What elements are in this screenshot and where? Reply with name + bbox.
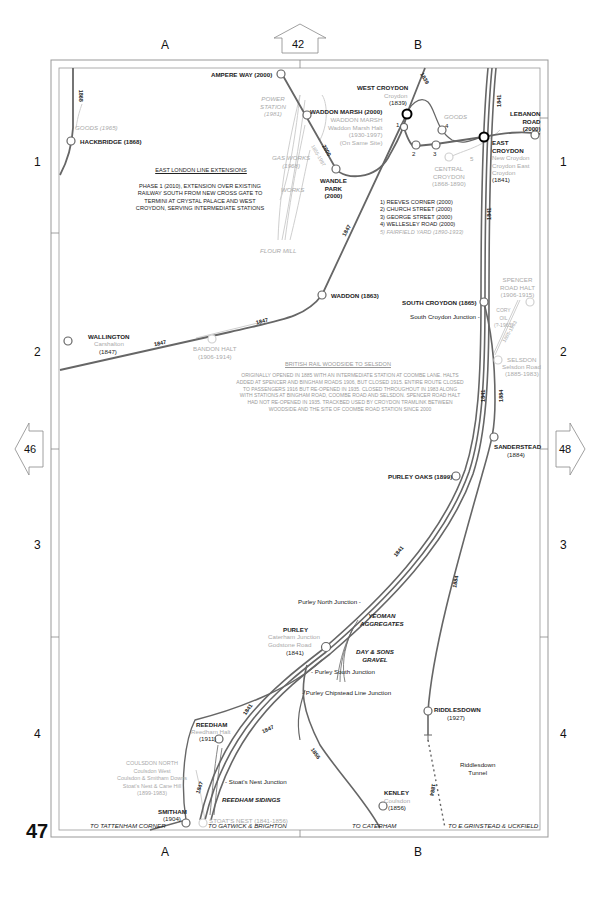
label-wandle-park: WANDLEPARK(2000)	[320, 177, 347, 200]
line-year-1868: 1868	[76, 90, 84, 102]
label-wallington-year: (1847)	[99, 348, 117, 356]
label-purley-chipstead-junction: - Purley Chipstead Line Junction	[302, 689, 391, 697]
page-number: 47	[26, 820, 48, 843]
label-bandon-halt: BANDON HALT(1906-1914)	[193, 345, 237, 360]
label-sanderstead: SANDERSTEAD	[494, 443, 541, 451]
note-east-london-title: EAST LONDON LINE EXTENSIONS	[142, 167, 260, 174]
label-coulsdon-north: COULSDON NORTHCoulsdon WestCoulsdon & Sm…	[117, 760, 187, 798]
adjacent-page-left[interactable]: 46	[24, 443, 36, 455]
line-year-1841-south: 1841	[480, 390, 488, 402]
label-kenley: KENLEY	[384, 789, 409, 797]
label-works: WORKS	[281, 186, 304, 194]
destination-tattenham: TO TATTENHAM CORNER	[90, 822, 166, 830]
label-purley-alt: Caterham JunctionGodstone Road	[268, 633, 320, 648]
grid-row-4-right: 4	[560, 727, 567, 741]
grid-row-1-right: 1	[560, 155, 567, 169]
railway-map: A B A B 1 1 2 2 3 3 4 4 42 46 48 47 AMPE…	[0, 0, 601, 902]
label-goods-1965: GOODS (1965)	[75, 124, 118, 132]
label-purley-year: (1841)	[286, 649, 304, 657]
label-reedham-year: (1911)	[199, 735, 216, 743]
inner-frame	[59, 68, 540, 830]
label-waddon-marsh: WADDON MARSH (2000)	[310, 108, 382, 116]
adjacent-page-top[interactable]: 42	[292, 38, 304, 50]
label-yeoman-aggregates: YEOMANAGGREGATES	[360, 612, 404, 627]
grid-row-3-right: 3	[560, 538, 567, 552]
label-power-station: POWERSTATION(1981)	[260, 95, 286, 118]
adjacent-page-right[interactable]: 48	[559, 443, 571, 455]
line-year-1884: 1884	[498, 390, 506, 402]
grid-row-4-left: 4	[34, 727, 41, 741]
destination-caterham: TO CATERHAM	[352, 822, 396, 830]
destination-gatwick: TO GATWICK & BRIGHTON	[208, 822, 287, 830]
label-hackbridge: HACKBRIDGE (1868)	[80, 138, 142, 146]
label-wallington-alt: Carshalton	[94, 340, 124, 348]
label-south-croydon: SOUTH CROYDON (1865)	[402, 299, 477, 307]
note-east-london-body: PHASE 1 (2010), EXTENSION OVER EXISTING …	[134, 183, 266, 213]
line-year-1841-middle: 1841	[486, 208, 494, 220]
label-kenley-year: (1856)	[388, 804, 406, 812]
label-waddon: WADDON (1863)	[331, 292, 379, 300]
grid-row-3-left: 3	[34, 538, 41, 552]
destination-grinstead: TO E.GRINSTEAD & UCKFIELD	[448, 822, 538, 830]
label-purley-north-junction: Purley North Junction -	[298, 598, 361, 606]
grid-row-1-left: 1	[34, 155, 41, 169]
label-flour-mill: FLOUR MILL	[260, 247, 296, 255]
note-woodside-body: ORIGINALLY OPENED IN 1885 WITH AN INTERM…	[236, 372, 464, 413]
label-lebanon-road: LEBANONROAD(2000)	[510, 110, 541, 133]
grid-col-b-top: B	[414, 38, 422, 52]
label-purley-south-junction: - Purley South Junction	[311, 668, 375, 676]
label-stoats-nest-junction: - Stoat's Nest Junction	[225, 778, 287, 786]
label-day-sons-gravel: DAY & SONSGRAVEL	[356, 648, 394, 663]
label-riddlesdown-year: (1927)	[447, 714, 465, 722]
label-east-croydon-alt: New CroydonCroydon EastCroydon	[492, 154, 530, 177]
grid-row-2-right: 2	[560, 345, 567, 359]
line-year-1841-top: 1841	[496, 95, 504, 107]
note-tram-stops: 1) REEVES CORNER (2000) 2) CHURCH STREET…	[380, 199, 480, 236]
label-selsdon-year: (1885-1983)	[505, 370, 539, 378]
grid-col-a-top: A	[161, 38, 169, 52]
label-riddlesdown-tunnel: RiddlesdownTunnel	[460, 761, 495, 776]
label-central-croydon: CENTRALCROYDON(1868-1890)	[432, 165, 466, 188]
note-woodside-title: BRITISH RAIL WOODSIDE TO SELSDON	[278, 361, 398, 368]
label-goods: GOODS	[444, 113, 467, 121]
label-south-croydon-junction: South Croydon Junction -	[410, 313, 480, 321]
label-spencer-road-halt: SPENCERROAD HALT(1906-1915)	[500, 276, 535, 299]
label-east-croydon-year: (1841)	[492, 176, 510, 184]
label-sanderstead-year: (1884)	[507, 451, 525, 459]
label-gas-works: GAS WORKS(1968)	[272, 154, 310, 169]
label-waddon-marsh-historic: WADDON MARSHWaddon Marsh Halt(1930-1997)…	[328, 116, 382, 146]
label-reedham-sidings: REEDHAM SIDINGS	[222, 796, 280, 804]
grid-col-b-bottom: B	[414, 845, 422, 859]
label-purley-oaks: PURLEY OAKS (1899)	[388, 473, 452, 481]
grid-row-2-left: 2	[34, 345, 41, 359]
outer-frame	[51, 60, 548, 837]
label-ampere-way: AMPERE WAY (2000)	[211, 71, 272, 79]
label-west-croydon-year: (1839)	[389, 99, 407, 107]
label-east-croydon: EASTCROYDON	[492, 139, 524, 154]
grid-col-a-bottom: A	[161, 845, 169, 859]
label-west-croydon: WEST CROYDON	[357, 84, 408, 92]
label-riddlesdown: RIDDLESDOWN	[434, 706, 481, 714]
